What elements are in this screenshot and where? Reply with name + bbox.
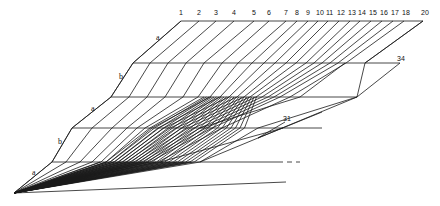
diagram-labels: 12345678910111213141516171820ababa3431	[32, 9, 429, 177]
top-label-9: 9	[306, 9, 310, 16]
side-label-b: b	[58, 137, 62, 146]
top-label-17: 17	[391, 9, 399, 16]
top-label-2: 2	[197, 9, 201, 16]
fan-line	[14, 97, 234, 193]
diagram-lines	[14, 21, 423, 193]
top-label-11: 11	[326, 9, 333, 16]
top-label-15: 15	[369, 9, 377, 16]
top-label-6: 6	[267, 9, 271, 16]
top-label-4: 4	[232, 9, 236, 16]
side-label-a: a	[91, 104, 95, 113]
top-label-8: 8	[295, 9, 299, 16]
fan-line	[14, 97, 227, 193]
top-label-20: 20	[421, 9, 429, 16]
top-label-10: 10	[316, 9, 324, 16]
top-label-13: 13	[348, 9, 356, 16]
diagonal-31	[258, 122, 285, 138]
ray-diagram: 12345678910111213141516171820ababa3431	[0, 0, 440, 206]
top-label-18: 18	[402, 9, 410, 16]
side-label-b: b	[119, 72, 123, 81]
ray-17	[14, 21, 393, 193]
side-label-a: a	[156, 33, 160, 42]
top-label-12: 12	[337, 9, 345, 16]
ray-13	[14, 21, 350, 193]
top-label-16: 16	[380, 9, 388, 16]
top-label-5: 5	[252, 9, 256, 16]
annotation-34: 34	[397, 55, 405, 62]
top-label-14: 14	[358, 9, 366, 16]
top-label-7: 7	[284, 9, 288, 16]
top-label-3: 3	[214, 9, 218, 16]
side-label-a: a	[32, 168, 36, 177]
top-label-1: 1	[179, 9, 183, 16]
fan-line	[14, 97, 207, 193]
annotation-31: 31	[283, 115, 291, 122]
ray-12	[14, 21, 339, 193]
